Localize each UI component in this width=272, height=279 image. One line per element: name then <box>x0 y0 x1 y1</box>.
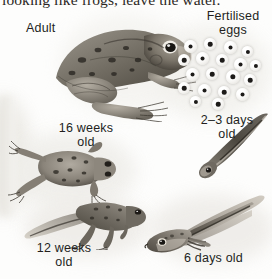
stage-label-line: Fertilised <box>196 10 270 24</box>
tadpole-with-gills-illustration <box>140 194 272 256</box>
stage-label-line: 2–3 days <box>194 114 260 128</box>
stage-label-line: eggs <box>196 24 270 38</box>
stage-label-line: 16 weeks <box>55 122 117 136</box>
stage-label-16-weeks: 16 weeks old <box>55 122 117 149</box>
stage-label-6-days: 6 days old <box>184 252 264 266</box>
stage-label-line: old <box>32 256 96 270</box>
stage-label-line: 12 weeks <box>32 242 96 256</box>
stage-label-line: old <box>55 136 117 150</box>
book-page-illustration: looking like frogs, leave the water. <box>0 0 272 279</box>
stage-label-adult: Adult <box>26 22 56 36</box>
stage-label-12-weeks: 12 weeks old <box>32 242 96 269</box>
stage-label-fertilised-eggs: Fertilised eggs <box>196 10 270 37</box>
young-froglet-illustration <box>8 140 136 204</box>
stage-label-line: old <box>194 128 260 142</box>
stage-label-2-3-days: 2–3 days old <box>194 114 260 141</box>
frog-spawn-illustration <box>176 38 272 110</box>
body-text-line: looking like frogs, leave the water. <box>2 0 270 9</box>
